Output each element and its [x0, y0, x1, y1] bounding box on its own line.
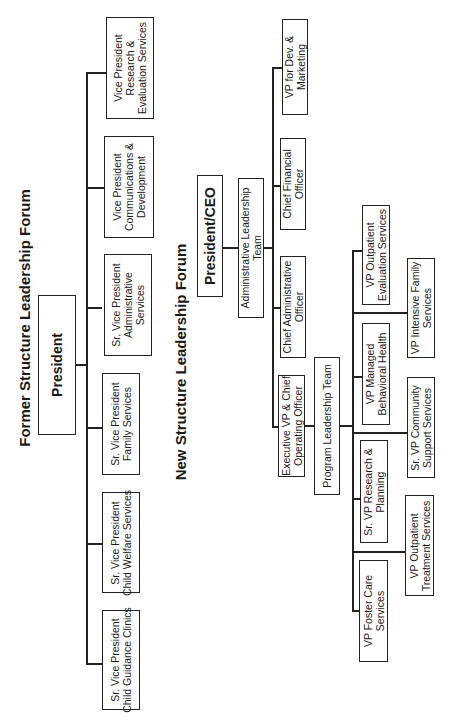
vp-managed-behavioral-health-box: VP Managed Behavioral Health	[362, 323, 390, 425]
sr-vp-community-support-box: Sr. VP Community Support Services	[407, 377, 435, 478]
sr-vp-research-planning-box: Sr. VP Research & Planning	[360, 440, 388, 543]
connector-line	[340, 425, 352, 427]
connector-line	[352, 551, 406, 553]
box-label: Sr. VP Community Support Services	[409, 385, 433, 471]
vp-intensive-family-box: VP Intensive Family Services	[407, 258, 435, 358]
box-label: Vice President Research & Evaluation Ser…	[112, 22, 148, 114]
connector-line	[352, 376, 362, 378]
box-label: VP Managed Behavioral Health	[364, 333, 388, 416]
former-administrative-box: Sr. Vice President Administrative Servic…	[104, 254, 152, 356]
connector-line	[86, 187, 104, 189]
connector-line	[86, 543, 102, 545]
vp-outpatient-evaluation-box: VP Outpatient Evaluation Services	[362, 205, 390, 305]
connector-line	[86, 427, 102, 429]
box-label: VP Outpatient Treatment Services	[408, 500, 432, 591]
admin-leadership-team-box: Administrative Leadership Team	[238, 178, 264, 318]
box-label: VP Outpatient Evaluation Services	[364, 209, 388, 301]
box-label: Sr. Vice President Child Guidance Clinic…	[109, 607, 133, 713]
box-label: Sr. VP Research & Planning	[362, 448, 386, 535]
box-label: Sr. Vice President Family Services	[109, 382, 133, 465]
former-family-services-box: Sr. Vice President Family Services	[102, 373, 140, 475]
former-child-guidance-box: Sr. Vice President Child Guidance Clinic…	[102, 610, 140, 710]
box-label: VP Foster Care Services	[362, 575, 386, 647]
box-label: Chief Administrative Officer	[281, 261, 305, 354]
box-label: Chief Financial Officer	[281, 149, 305, 218]
former-president-box: President	[38, 295, 76, 435]
former-research-box: Vice President Research & Evaluation Ser…	[106, 17, 154, 119]
evp-coo-box: Executive VP & Chief Operating Officer	[278, 375, 305, 477]
new-president-ceo-box: President/CEO	[197, 175, 223, 297]
program-trunk-line	[352, 250, 354, 611]
connector-line	[86, 663, 102, 665]
connector-line	[272, 307, 280, 309]
vp-dev-marketing-box: VP for Dev. & Marketing	[282, 19, 308, 115]
box-label: Sr. Vice President Child Welfare Service…	[109, 489, 133, 595]
connector-line	[223, 247, 238, 249]
former-communications-box: Vice President Communications & Developm…	[104, 136, 154, 238]
vp-outpatient-treatment-box: VP Outpatient Treatment Services	[405, 495, 434, 596]
connector-line	[352, 250, 362, 252]
admin-trunk-line	[272, 67, 274, 427]
president-ceo-label: President/CEO	[202, 187, 218, 285]
connector-line	[86, 72, 106, 74]
box-label: Program Leadership Team	[321, 364, 333, 488]
box-label: Sr. Vice President Administrative Servic…	[110, 263, 146, 346]
connector-line	[305, 425, 314, 427]
former-child-welfare-box: Sr. Vice President Child Welfare Service…	[102, 492, 140, 593]
new-structure-title: New Structure Leadership Forum	[172, 244, 189, 481]
connector-line	[272, 185, 280, 187]
former-structure-title: Former Structure Leadership Forum	[16, 189, 33, 447]
connector-line	[272, 67, 282, 69]
former-trunk-line	[86, 72, 88, 664]
connector-line	[352, 432, 407, 434]
connector-line	[86, 307, 102, 309]
box-label: Vice President Communications & Developm…	[111, 143, 147, 231]
program-leadership-team-box: Program Leadership Team	[314, 357, 340, 495]
connector-line	[352, 312, 407, 314]
cfo-box: Chief Financial Officer	[280, 138, 306, 230]
box-label: Administrative Leadership Team	[239, 188, 263, 309]
box-label: VP Intensive Family Services	[409, 262, 433, 355]
box-label: Executive VP & Chief Operating Officer	[280, 376, 304, 476]
cao-box: Chief Administrative Officer	[280, 256, 306, 358]
box-label: VP for Dev. & Marketing	[283, 36, 307, 99]
former-president-label: President	[49, 333, 65, 397]
vp-foster-care-box: VP Foster Care Services	[359, 560, 388, 662]
